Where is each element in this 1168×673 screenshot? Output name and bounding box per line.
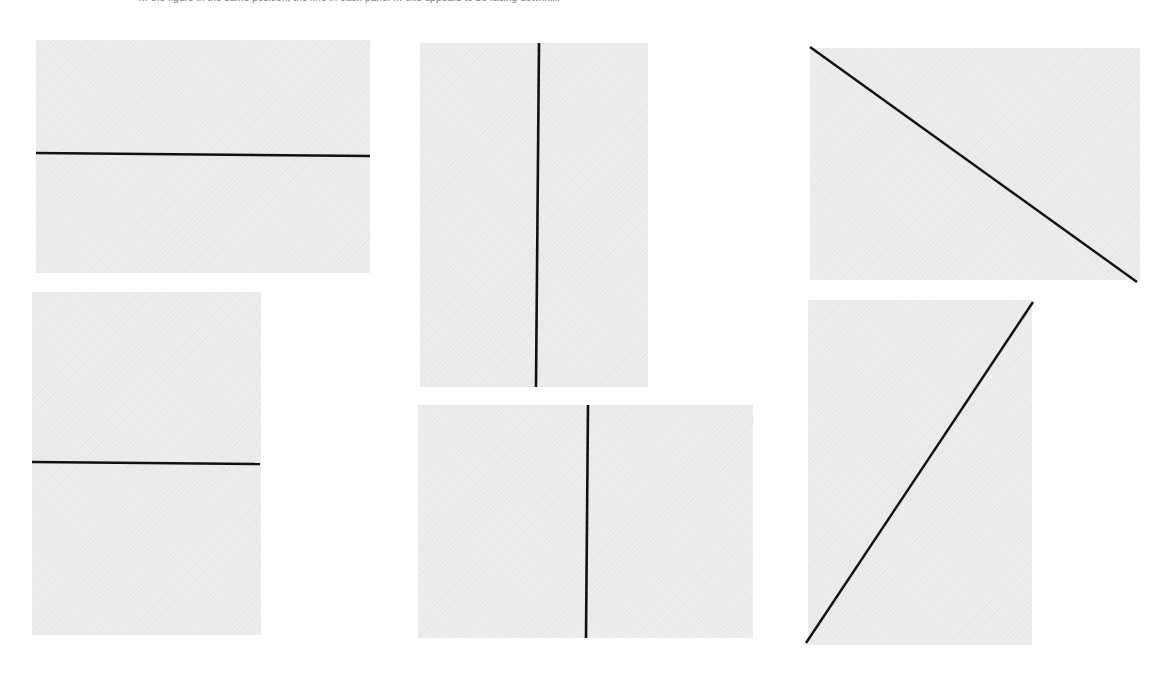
- panel-portrait-diagonal-up-line: [808, 300, 1032, 645]
- figure-caption: … the figure in the same position; the l…: [138, 0, 938, 4]
- panel-landscape-diagonal-down-line: [810, 48, 1140, 280]
- panel-landscape-vertical-line: [418, 405, 753, 638]
- panel-portrait-horizontal-line: [32, 292, 261, 635]
- panel-landscape-horizontal-line: [36, 40, 370, 273]
- panel-portrait-vertical-line: [420, 43, 648, 387]
